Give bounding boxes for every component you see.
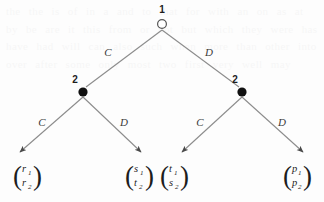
payoff-bottom-subscript: 2 xyxy=(28,183,32,191)
payoff-left-paren: ( xyxy=(160,161,169,191)
right-node-label: 2 xyxy=(232,74,238,85)
edge-right-terminal-4 xyxy=(242,97,303,152)
root-node-label: 1 xyxy=(159,4,165,15)
terminal-payoff-2: ( s 1 t 2 ) xyxy=(125,161,154,191)
terminal-payoff-1: ( r 1 r 2 ) xyxy=(13,161,42,191)
payoff-top-symbol: t xyxy=(169,163,173,174)
payoff-right-paren: ) xyxy=(33,161,42,191)
edge-label-left-terminal-1: C xyxy=(38,116,46,128)
left-node-player-2 xyxy=(78,87,87,96)
payoff-bottom-subscript: 2 xyxy=(139,183,143,191)
edge-label-right-terminal-3: C xyxy=(196,116,204,128)
edge-root-right xyxy=(162,30,239,87)
edge-label-root-right: D xyxy=(204,46,213,58)
right-node-player-2 xyxy=(237,87,246,96)
edges-group xyxy=(20,30,303,152)
edge-right-terminal-3 xyxy=(182,97,242,152)
game-tree-diagram: C D C D C D 1 2 2 ( r 1 r 2 ) xyxy=(0,0,324,202)
root-node-player-1 xyxy=(158,20,167,29)
payoff-right-paren: ) xyxy=(145,161,154,191)
edge-label-root-left: C xyxy=(104,46,112,58)
payoff-left-paren: ( xyxy=(13,161,22,191)
payoff-right-paren: ) xyxy=(180,161,189,191)
payoff-bottom-symbol: r xyxy=(22,177,27,188)
left-node-label: 2 xyxy=(72,74,78,85)
payoff-bottom-symbol: t xyxy=(134,177,138,188)
payoff-bottom-symbol: p xyxy=(291,177,297,188)
payoff-top-subscript: 1 xyxy=(298,169,302,177)
payoff-left-paren: ( xyxy=(125,161,134,191)
payoff-top-symbol: p xyxy=(291,163,297,174)
payoff-top-subscript: 1 xyxy=(140,169,144,177)
payoff-bottom-symbol: s xyxy=(169,177,173,188)
payoff-left-paren: ( xyxy=(283,161,292,191)
terminal-payoff-3: ( t 1 s 2 ) xyxy=(160,161,189,191)
payoff-top-symbol: r xyxy=(22,163,27,174)
payoff-bottom-subscript: 2 xyxy=(298,183,302,191)
payoff-right-paren: ) xyxy=(303,161,312,191)
edge-left-terminal-2 xyxy=(83,97,141,152)
edge-label-right-terminal-4: D xyxy=(277,116,286,128)
figure-canvas: the the is of in a and to that for with … xyxy=(0,0,324,202)
edge-labels-group: C D C D C D xyxy=(38,46,286,128)
payoff-top-subscript: 1 xyxy=(174,169,178,177)
edge-root-left xyxy=(86,30,162,87)
payoff-top-symbol: s xyxy=(134,163,138,174)
payoff-bottom-subscript: 2 xyxy=(175,183,179,191)
terminal-payoff-4: ( p 1 p 2 ) xyxy=(283,161,312,191)
edge-left-terminal-1 xyxy=(20,97,83,152)
edge-label-left-terminal-2: D xyxy=(119,116,128,128)
terminal-payoffs-group: ( r 1 r 2 ) ( s 1 t 2 ) ( t 1 s 2 xyxy=(13,161,312,191)
payoff-top-subscript: 1 xyxy=(28,169,32,177)
nodes-group: 1 2 2 xyxy=(72,4,246,97)
